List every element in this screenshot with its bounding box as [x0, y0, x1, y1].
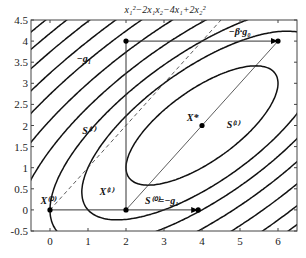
- x-tick-label: 5: [237, 235, 243, 247]
- annotations: −g₁−β·g₀S⁽¹⁾S⁽¹⁾X*X⁽¹⁾X⁽⁰⁾S⁽⁰⁾=−g₁: [40, 26, 252, 206]
- x-tick-label: 4: [199, 235, 205, 247]
- y-tick-label: -0.5: [11, 225, 29, 237]
- y-tick-label: 3.5: [14, 56, 28, 68]
- x-tick-label: 3: [161, 235, 167, 247]
- x-tick-label: 1: [85, 235, 91, 247]
- x-tick-label: 6: [275, 235, 281, 247]
- x-tick-label: 2: [123, 235, 129, 247]
- annotation-label: S⁽¹⁾: [82, 125, 97, 136]
- y-tick-label: 3: [23, 77, 29, 89]
- contour-line: [23, 12, 77, 56]
- y-tick-label: 1: [23, 162, 29, 174]
- y-tick-label: 2: [23, 120, 29, 132]
- contour-line: [82, 31, 305, 220]
- annotation-label: S⁽⁰⁾=−g₁: [145, 195, 179, 206]
- x-tick-label: 0: [47, 235, 53, 247]
- point-X(0): [47, 207, 52, 212]
- contour-chart: x₁²−2x₁x₂−4x₁+2x₂² 0123456 -0.500.511.52…: [0, 0, 306, 258]
- annotation-label: X*: [186, 112, 200, 123]
- annotation-label: X⁽⁰⁾: [40, 195, 58, 206]
- contour-line: [23, 12, 56, 39]
- y-tick-label: 4: [23, 35, 29, 47]
- annotation-label: X⁽¹⁾: [98, 186, 115, 197]
- y-tick-label: 4.5: [14, 14, 28, 26]
- annotation-label: −g₁: [77, 53, 92, 64]
- y-tick-label: 1.5: [14, 141, 28, 153]
- y-tick-label: 0.5: [14, 183, 28, 195]
- point-grad-point-top-left: [123, 39, 128, 44]
- annotation-label: S⁽¹⁾: [227, 119, 242, 130]
- y-tick-label: 0: [23, 204, 29, 216]
- point-X(1): [123, 207, 128, 212]
- y-tick-label: 2.5: [14, 98, 28, 110]
- annotation-label: −β·g₀: [229, 26, 252, 37]
- chart-title: x₁²−2x₁x₂−4x₁+2x₂²: [124, 4, 207, 15]
- point-X*: [199, 123, 204, 128]
